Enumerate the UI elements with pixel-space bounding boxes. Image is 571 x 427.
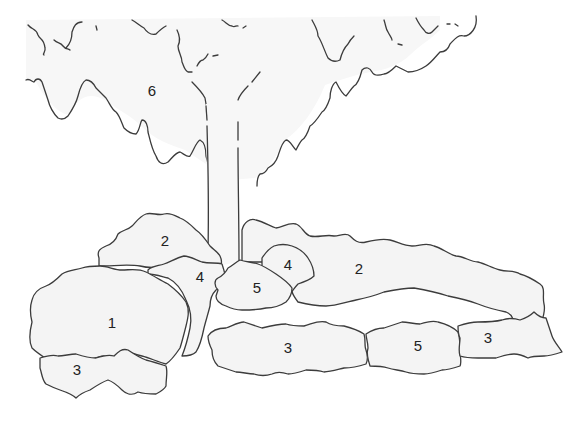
label-mass-5-front-right: 5 (414, 338, 422, 353)
diagram-canvas (0, 0, 571, 427)
tree-canopy (26, 16, 476, 186)
label-mass-3-front-center: 3 (284, 340, 292, 355)
label-mass-4-right: 4 (284, 257, 292, 272)
mass-3-front-right (458, 312, 562, 358)
label-mass-3-front-right: 3 (484, 330, 492, 345)
tree-trunk (206, 104, 239, 268)
label-mass-4-left: 4 (196, 269, 204, 284)
label-mass-1: 1 (108, 315, 116, 330)
label-tree-6: 6 (148, 83, 156, 98)
label-mass-2-right-long: 2 (355, 261, 363, 276)
label-mass-5-trunk-base: 5 (253, 280, 261, 295)
label-mass-3-lower-left: 3 (73, 362, 81, 377)
planting-diagram: 6 2 2 4 4 5 1 3 3 5 3 (0, 0, 571, 427)
label-mass-2-upper-left: 2 (161, 233, 169, 248)
